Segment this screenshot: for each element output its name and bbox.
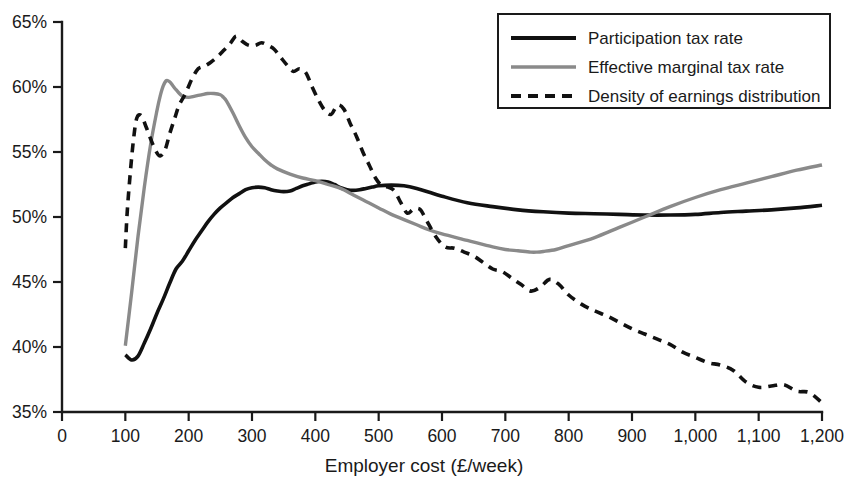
chart-svg: 01002003004005006007008009001,0001,1001,… (0, 0, 845, 487)
x-tick-label: 400 (301, 426, 330, 446)
y-tick-label: 65% (12, 12, 47, 32)
y-tick-label: 55% (12, 142, 47, 162)
y-tick-labels: 35%40%45%50%55%60%65% (12, 12, 47, 422)
y-tick-label: 45% (12, 272, 47, 292)
x-axis-title: Employer cost (£/week) (325, 455, 524, 476)
y-tick-label: 35% (12, 402, 47, 422)
x-tick-label: 700 (491, 426, 520, 446)
legend-label: Participation tax rate (588, 29, 743, 48)
y-tick-label: 60% (12, 77, 47, 97)
chart-figure: 01002003004005006007008009001,0001,1001,… (0, 0, 845, 487)
series-line-participation-tax-rate (125, 181, 822, 360)
x-tick-label: 0 (57, 426, 67, 446)
y-tick-label: 50% (12, 207, 47, 227)
legend-label: Effective marginal tax rate (588, 58, 784, 77)
legend-label: Density of earnings distribution (588, 87, 820, 106)
x-tick-label: 1,200 (800, 426, 844, 446)
x-tick-label: 100 (111, 426, 140, 446)
x-tick-label: 600 (427, 426, 456, 446)
chart-legend: Participation tax rateEffective marginal… (498, 14, 830, 108)
x-tick-label: 300 (237, 426, 266, 446)
x-tick-label: 500 (364, 426, 393, 446)
x-tick-label: 900 (617, 426, 646, 446)
x-tick-labels: 01002003004005006007008009001,0001,1001,… (57, 426, 844, 446)
x-tick-label: 200 (174, 426, 203, 446)
y-tick-label: 40% (12, 337, 47, 357)
x-tick-label: 1,000 (673, 426, 717, 446)
x-tick-label: 800 (554, 426, 583, 446)
x-tick-label: 1,100 (737, 426, 781, 446)
